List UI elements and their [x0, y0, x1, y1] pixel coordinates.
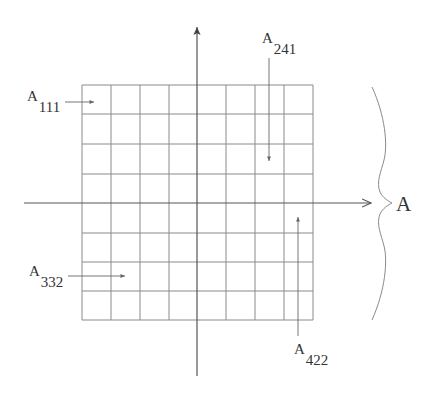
label-a332-sub: 332	[41, 274, 64, 290]
brace-label: A	[396, 194, 411, 215]
diagram-canvas	[0, 0, 437, 395]
label-a111: A111	[27, 88, 60, 104]
label-a422-main: A	[294, 341, 305, 357]
label-a332: A332	[29, 263, 63, 279]
label-a241-sub: 241	[274, 41, 297, 57]
label-a422: A422	[294, 341, 328, 357]
label-a422-sub: 422	[306, 352, 329, 368]
label-a241-main: A	[262, 30, 273, 46]
label-a111-main: A	[27, 88, 38, 104]
label-a332-main: A	[29, 263, 40, 279]
label-a111-sub: 111	[39, 99, 60, 115]
label-a241: A241	[262, 30, 296, 46]
curly-brace-icon	[372, 87, 392, 320]
